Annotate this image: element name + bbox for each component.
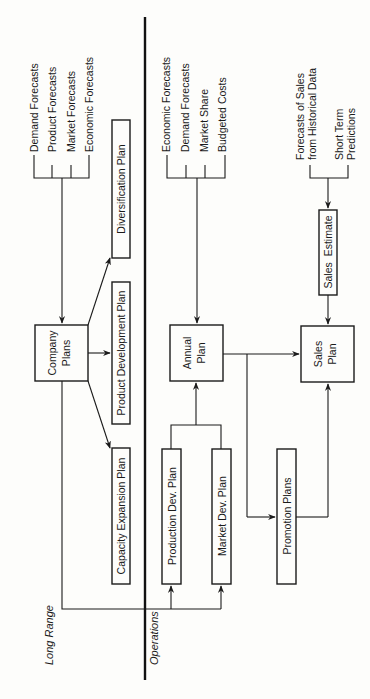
svg-text:Sales Estimate: Sales Estimate bbox=[322, 215, 334, 288]
planning-diagram: Long Range Operations Demand Forecasts P… bbox=[0, 0, 370, 699]
svg-text:Plan: Plan bbox=[195, 342, 207, 363]
svg-text:Capacity Expansion Plan: Capacity Expansion Plan bbox=[115, 457, 127, 574]
svg-text:Production Dev. Plan: Production Dev. Plan bbox=[166, 467, 178, 565]
annual-plan-box: Annual Plan bbox=[170, 325, 223, 381]
input-budgeted-costs: Budgeted Costs bbox=[216, 77, 228, 152]
svg-text:Promotion Plans: Promotion Plans bbox=[281, 477, 293, 554]
input-product-forecasts: Product Forecasts bbox=[46, 67, 58, 152]
annual-plan-inputs: Economic Forecasts Demand Forecasts Mark… bbox=[160, 57, 228, 323]
company-plans-box: Company Plans bbox=[35, 325, 88, 381]
svg-text:Diversification Plan: Diversification Plan bbox=[115, 144, 127, 233]
promotion-plans-box: Promotion Plans bbox=[277, 449, 296, 584]
input-economic-forecasts: Economic Forecasts bbox=[83, 57, 95, 152]
input-predictions: Predictions bbox=[345, 108, 357, 160]
product-development-plan-box: Product Development Plan bbox=[112, 282, 130, 424]
long-range-inputs: Demand Forecasts Product Forecasts Marke… bbox=[28, 57, 95, 323]
sales-estimate-box: Sales Estimate bbox=[319, 210, 337, 295]
input-from-historical-data: from Historical Data bbox=[306, 68, 318, 160]
capacity-expansion-plan-box: Capacity Expansion Plan bbox=[112, 448, 130, 584]
svg-text:Product Development Plan: Product Development Plan bbox=[115, 290, 127, 415]
production-dev-plan-box: Production Dev. Plan bbox=[162, 449, 181, 584]
input-forecasts-of-sales: Forecasts of Sales bbox=[294, 73, 306, 160]
svg-text:Plan: Plan bbox=[326, 343, 338, 364]
arrow-to-diversification bbox=[88, 258, 110, 325]
sales-plan-box: Sales Plan bbox=[301, 326, 354, 382]
input-short-term: Short Term bbox=[333, 109, 345, 160]
market-dev-plan-box: Market Dev. Plan bbox=[212, 449, 231, 584]
svg-text:Sales: Sales bbox=[312, 341, 324, 367]
input-economic-forecasts-annual: Economic Forecasts bbox=[160, 57, 172, 152]
dev-plans-merge-line bbox=[171, 425, 221, 449]
label-long-range: Long Range bbox=[43, 605, 55, 665]
sales-inputs: Forecasts of Sales from Historical Data … bbox=[294, 68, 357, 208]
svg-text:Company: Company bbox=[46, 330, 58, 376]
svg-text:Market Dev. Plan: Market Dev. Plan bbox=[216, 476, 228, 556]
input-market-forecasts: Market Forecasts bbox=[65, 71, 77, 152]
input-market-share: Market Share bbox=[198, 89, 210, 152]
label-operations: Operations bbox=[148, 611, 160, 665]
svg-text:Annual: Annual bbox=[181, 337, 193, 370]
input-demand-forecasts-annual: Demand Forecasts bbox=[179, 63, 191, 152]
arrow-to-capacity-expansion bbox=[88, 381, 110, 448]
svg-text:Plans: Plans bbox=[60, 340, 72, 366]
input-demand-forecasts: Demand Forecasts bbox=[28, 63, 40, 152]
long-range-feedback-line bbox=[62, 381, 221, 609]
diversification-plan-box: Diversification Plan bbox=[112, 120, 130, 258]
